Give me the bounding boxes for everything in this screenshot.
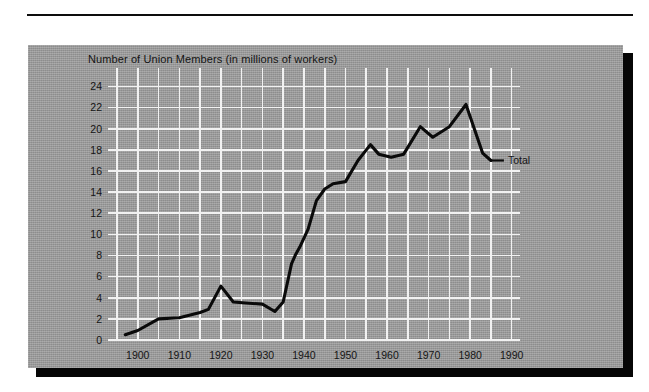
- series-label-group: Total: [491, 154, 530, 166]
- y-tick-label: 4: [96, 292, 102, 304]
- series-label: Total: [508, 154, 530, 166]
- y-tick-label: 2: [96, 313, 102, 325]
- x-tick-label: 1990: [500, 349, 524, 361]
- line-chart-plot: 024681012141618202224 190019101920193019…: [28, 45, 623, 368]
- x-tick-label: 1960: [375, 349, 399, 361]
- y-tick-label: 24: [90, 80, 102, 92]
- y-tick-label: 18: [90, 144, 102, 156]
- y-tick-label: 0: [96, 334, 102, 346]
- x-tick-label: 1940: [292, 349, 316, 361]
- data-series-line: [125, 105, 491, 335]
- x-tick-label: 1920: [209, 349, 233, 361]
- top-rule-divider: [27, 14, 633, 16]
- x-tick-label: 1900: [126, 349, 150, 361]
- y-tick-label: 12: [90, 207, 102, 219]
- y-tick-label: 10: [90, 228, 102, 240]
- y-tick-label: 14: [90, 186, 102, 198]
- x-tick-label: 1930: [251, 349, 275, 361]
- y-tick-label: 16: [90, 165, 102, 177]
- y-axis-tick-labels: 024681012141618202224: [90, 80, 102, 345]
- figure-root: Number of Union Members (in millions of …: [0, 0, 649, 392]
- x-tick-label: 1970: [417, 349, 441, 361]
- y-tick-label: 6: [96, 270, 102, 282]
- y-tick-label: 20: [90, 123, 102, 135]
- x-tick-label: 1910: [168, 349, 192, 361]
- x-axis-tick-labels: 1900191019201930194019501960197019801990: [126, 349, 523, 361]
- x-tick-label: 1950: [334, 349, 358, 361]
- data-series-group: [125, 105, 491, 335]
- y-tick-label: 8: [96, 249, 102, 261]
- chart-panel: Number of Union Members (in millions of …: [28, 45, 623, 368]
- y-tick-label: 22: [90, 101, 102, 113]
- x-tick-label: 1980: [458, 349, 482, 361]
